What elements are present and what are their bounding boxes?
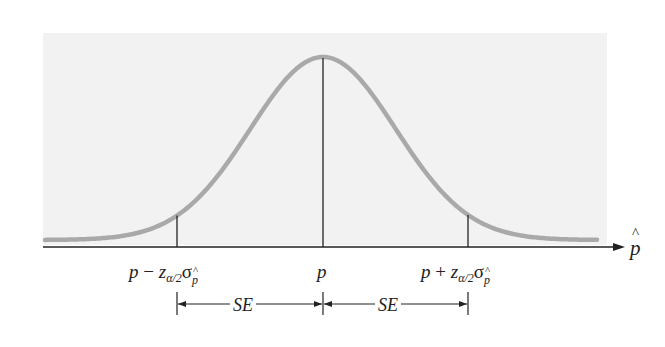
- lower-op: −: [143, 261, 154, 282]
- upper-sigma: σ: [474, 261, 484, 282]
- lower-z: z: [159, 261, 166, 282]
- se-left-arrowhead-end: [314, 301, 322, 307]
- upper-sigma-sub: p: [484, 274, 490, 286]
- lower-z-sub: α/2: [166, 271, 182, 285]
- p-hat-symbol: p: [630, 238, 641, 259]
- upper-z: z: [451, 261, 458, 282]
- se-left-arrowhead-start: [178, 301, 186, 307]
- lower-sigma-sub: p: [192, 274, 198, 286]
- lower-bound-label: p − zα/2σp: [129, 262, 198, 286]
- center-label: p: [317, 262, 327, 281]
- se-right-label: SE: [375, 296, 401, 314]
- x-axis-label: p: [630, 238, 641, 259]
- upper-z-sub: α/2: [458, 271, 474, 285]
- upper-p: p: [421, 261, 431, 282]
- upper-bound-label: p + zα/2σp: [421, 262, 490, 286]
- plot-panel: [43, 33, 607, 245]
- se-right-arrowhead-start: [324, 301, 332, 307]
- x-axis-arrowhead: [613, 243, 625, 251]
- se-right-arrowhead-end: [459, 301, 467, 307]
- diagram-stage: p p − zα/2σp p p + zα/2σp SE SE: [0, 0, 665, 347]
- upper-op: +: [435, 261, 446, 282]
- normal-curve-diagram: [0, 0, 665, 347]
- lower-p: p: [129, 261, 139, 282]
- lower-sigma: σ: [182, 261, 192, 282]
- se-left-label: SE: [230, 296, 256, 314]
